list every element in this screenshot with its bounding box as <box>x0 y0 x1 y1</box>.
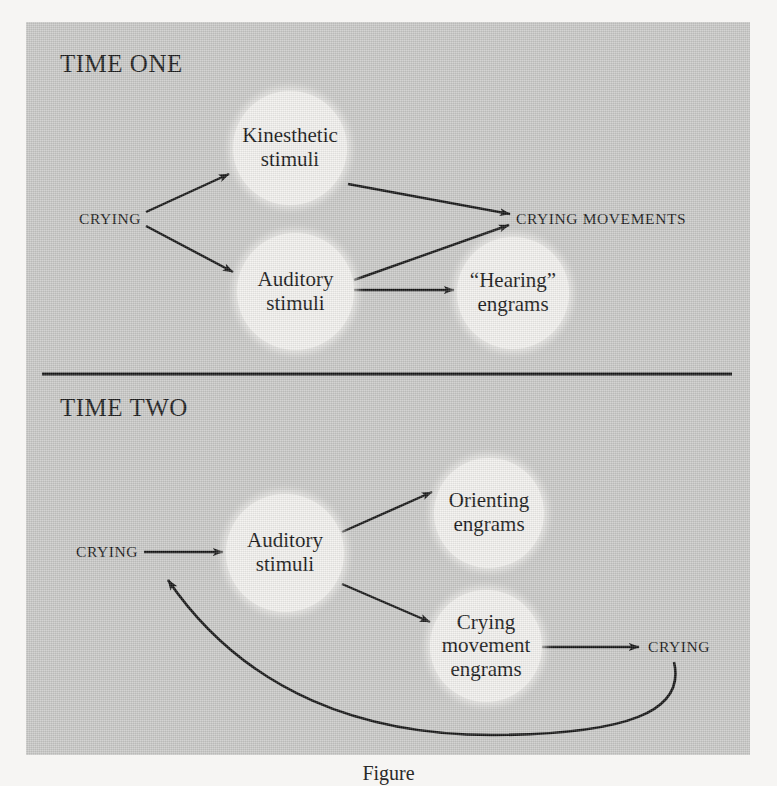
figure-panel: TIME ONE Kinesthetic stimuli Auditory st… <box>26 22 750 755</box>
time-one-heading: TIME ONE <box>60 50 183 78</box>
node-auditory-stimuli[interactable]: Auditory stimuli <box>237 233 354 350</box>
node-orienting-engrams[interactable]: Orienting engrams <box>434 458 544 568</box>
node-hearing-engrams-label: “Hearing” engrams <box>468 269 558 316</box>
figure-caption: Figure <box>0 762 777 786</box>
node-kinesthetic-stimuli[interactable]: Kinesthetic stimuli <box>233 91 347 205</box>
edge-feedback-curve <box>168 580 676 735</box>
label-crying-left: CRYING <box>76 543 138 561</box>
label-crying-movements: CRYING MOVEMENTS <box>516 210 686 228</box>
label-crying-right: CRYING <box>648 638 710 656</box>
connector-layer <box>26 22 750 755</box>
node-auditory-stimuli-2-label: Auditory stimuli <box>245 529 325 576</box>
edge-crying-to-kinesthetic <box>146 174 229 212</box>
time-two-heading: TIME TWO <box>60 394 188 422</box>
edge-crying-to-auditory <box>146 226 233 272</box>
node-orienting-engrams-label: Orienting engrams <box>447 489 531 536</box>
node-auditory-stimuli-label: Auditory stimuli <box>256 268 336 315</box>
node-auditory-stimuli-2[interactable]: Auditory stimuli <box>226 494 344 612</box>
node-kinesthetic-stimuli-label: Kinesthetic stimuli <box>240 124 340 171</box>
node-crying-movement-engrams[interactable]: Crying movement engrams <box>430 590 542 702</box>
edge-auditory-to-orienting-engrams <box>342 492 432 532</box>
label-crying-source: CRYING <box>79 210 141 228</box>
page-background: TIME ONE Kinesthetic stimuli Auditory st… <box>0 0 777 786</box>
node-crying-movement-engrams-label: Crying movement engrams <box>440 611 533 682</box>
edge-auditory-to-crying-movement-engrams <box>342 584 430 622</box>
node-hearing-engrams[interactable]: “Hearing” engrams <box>457 237 569 349</box>
edge-kinesthetic-to-crying-movements <box>348 184 510 214</box>
